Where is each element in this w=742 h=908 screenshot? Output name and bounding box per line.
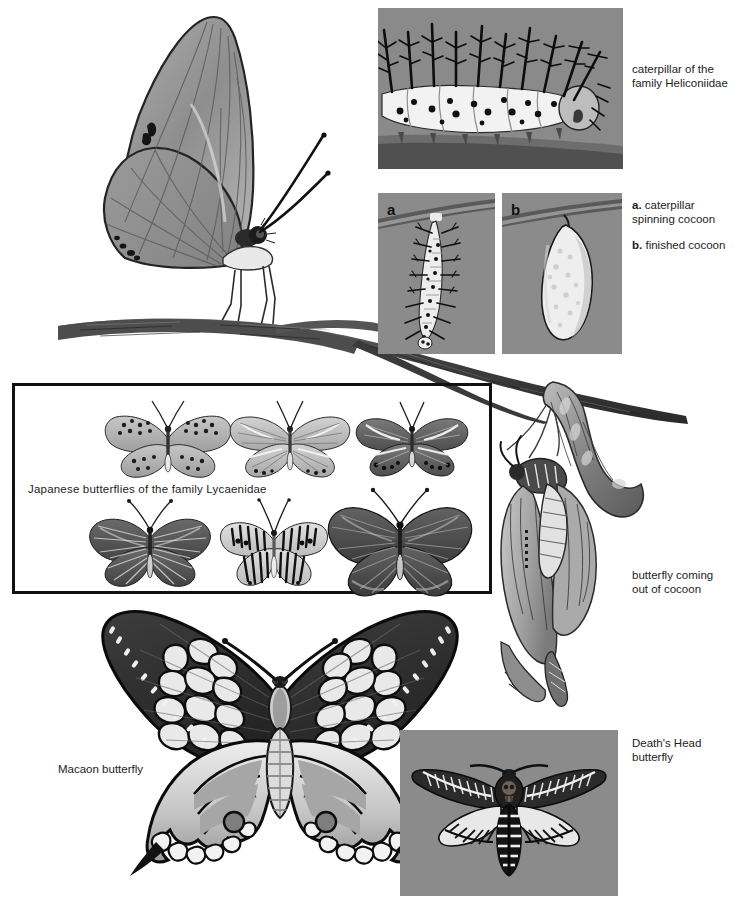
caption-line: butterfly coming xyxy=(632,568,740,582)
macaon-label: Macaon butterfly xyxy=(58,762,143,776)
caption-marker-b: b. xyxy=(632,239,642,251)
caption-line: caterpillar xyxy=(645,199,695,211)
caption-marker-a: a. xyxy=(632,199,642,211)
caption-cocoon-stages: a. caterpillar spinning cocoon b. finish… xyxy=(632,198,742,252)
lycaenidae-box-label: Japanese butterflies of the family Lycae… xyxy=(26,483,269,495)
caption-caterpillar-heliconiidae: caterpillar of the family Heliconiidae xyxy=(632,62,740,90)
caterpillar-spinning-photo-panel: a xyxy=(378,193,495,354)
caterpillar-photo-panel xyxy=(378,8,623,169)
deaths-head-photo-panel xyxy=(400,730,618,896)
svg-text:a: a xyxy=(387,201,396,218)
caption-line: Death's Head xyxy=(632,736,736,750)
caption-deaths-head: Death's Head butterfly xyxy=(632,736,736,764)
caption-spacer xyxy=(632,226,742,238)
svg-text:b: b xyxy=(511,201,520,218)
caption-line: caterpillar of the xyxy=(632,62,740,76)
caption-line: butterfly xyxy=(632,750,736,764)
caption-line: spinning cocoon xyxy=(632,212,742,226)
finished-cocoon-photo-panel: b xyxy=(502,193,622,354)
caption-line: finished cocoon xyxy=(645,239,725,251)
butterfly-emerging-from-cocoon xyxy=(495,380,653,712)
caption-butterfly-emerging: butterfly coming out of cocoon xyxy=(632,568,740,596)
caption-line: out of cocoon xyxy=(632,582,740,596)
caption-line: family Heliconiidae xyxy=(632,76,740,90)
